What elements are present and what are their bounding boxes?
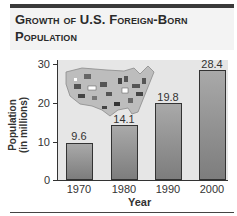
us-map-illustration: [62, 62, 162, 120]
y-axis-label-line1: Population: [7, 85, 18, 165]
x-tick-label: 2000: [192, 183, 232, 195]
y-tick-0: [53, 180, 57, 181]
chart-title-line1: Growth of U.S. Foreign-Born: [15, 11, 230, 28]
bar-value-label: 9.6: [59, 130, 99, 142]
bottom-rule: [10, 212, 234, 213]
bar-2000: [199, 70, 226, 180]
y-tick-10: [53, 142, 57, 143]
y-tick-label: 30: [28, 58, 50, 70]
bar-value-label: 19.8: [148, 91, 188, 103]
y-tick-label: 20: [28, 97, 50, 109]
bar-1980: [111, 125, 138, 180]
bar-value-label: 14.1: [104, 113, 144, 125]
y-tick-30: [53, 64, 57, 65]
chart-title-line2: Population: [15, 28, 230, 45]
x-tick-label: 1970: [59, 183, 99, 195]
chart-title: Growth of U.S. Foreign-Born Population: [15, 11, 230, 45]
y-tick-20: [53, 103, 57, 104]
y-axis-label: Population (in millions): [7, 85, 29, 165]
x-tick-label: 1980: [104, 183, 144, 195]
bar-1990: [155, 103, 182, 180]
bar-1970: [66, 143, 93, 180]
y-tick-label: 10: [28, 136, 50, 148]
y-axis: [57, 60, 58, 181]
x-axis: [57, 180, 228, 181]
y-axis-label-line2: (in millions): [18, 85, 29, 165]
x-tick-label: 1990: [148, 183, 188, 195]
y-tick-label: 0: [28, 174, 50, 186]
x-axis-label: Year: [128, 196, 151, 208]
bar-value-label: 28.4: [192, 58, 232, 70]
